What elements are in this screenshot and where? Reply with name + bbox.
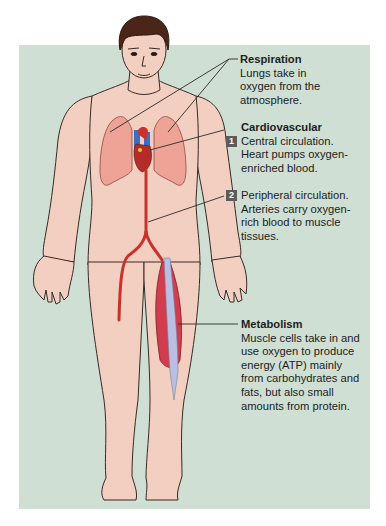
- peripheral-circulation-line: Arteries carry oxygen-: [241, 203, 350, 217]
- central-circulation-line: Heart pumps oxygen-: [241, 148, 348, 162]
- respiration-text-line: oxygen from the: [240, 80, 320, 94]
- body-silhouette: [33, 22, 246, 500]
- metabolism-label: Metabolism Muscle cells take in and use …: [241, 318, 360, 413]
- metabolism-title: Metabolism: [241, 318, 360, 332]
- number-badge-2: 2: [226, 190, 237, 201]
- respiration-title: Respiration: [240, 53, 320, 67]
- metabolism-text-line: use oxygen to produce: [241, 345, 360, 359]
- metabolism-text-line: energy (ATP) mainly: [241, 359, 360, 373]
- heart: [134, 127, 152, 172]
- peripheral-circulation-line: rich blood to muscle: [241, 216, 350, 230]
- number-badge-1: 1: [226, 136, 237, 147]
- metabolism-text-line: Muscle cells take in and: [241, 332, 360, 346]
- metabolism-text-line: from carbohydrates and: [241, 372, 360, 386]
- metabolism-text-line: fats, but also small: [241, 386, 360, 400]
- human-body-figure: [0, 0, 386, 526]
- peripheral-circulation-line: tissues.: [241, 230, 350, 244]
- central-circulation-line: enriched blood.: [241, 162, 348, 176]
- central-circulation-line: Central circulation.: [241, 135, 348, 149]
- respiration-text-line: atmosphere.: [240, 94, 320, 108]
- respiration-text-line: Lungs take in: [240, 67, 320, 81]
- peripheral-circulation-label: Peripheral circulation. Arteries carry o…: [241, 189, 350, 243]
- cardiovascular-label: Cardiovascular Central circulation. Hear…: [241, 121, 348, 175]
- respiration-label: Respiration Lungs take in oxygen from th…: [240, 53, 320, 107]
- metabolism-text-line: amounts from protein.: [241, 400, 360, 414]
- peripheral-circulation-line: Peripheral circulation.: [241, 189, 350, 203]
- cardiovascular-title: Cardiovascular: [241, 121, 348, 135]
